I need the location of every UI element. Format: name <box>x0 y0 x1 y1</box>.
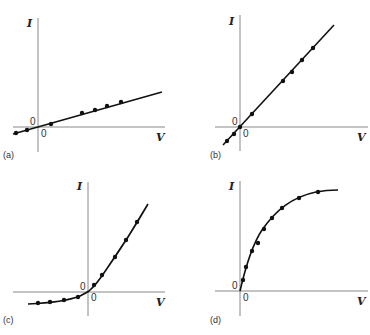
iv-characteristics-figure: I V 0 0 (a) I V 0 0 (b) <box>0 0 370 335</box>
y-axis-label: I <box>228 15 235 28</box>
origin-x-label: 0 <box>243 128 249 139</box>
x-axis-label: V <box>156 131 166 144</box>
fit-curve <box>240 190 338 291</box>
origin-y-label: 0 <box>232 280 238 291</box>
fit-line <box>13 92 162 134</box>
panel-label: (c) <box>3 315 14 325</box>
panel-label: (b) <box>210 150 221 160</box>
panel-d: I V 0 0 (d) <box>210 180 368 325</box>
origin-x-label: 0 <box>243 292 249 303</box>
x-axis-label: V <box>357 295 367 308</box>
origin-x-label: 0 <box>41 128 47 139</box>
panel-label: (a) <box>3 150 14 160</box>
panel-a: I V 0 0 (a) <box>3 17 166 160</box>
y-axis-label: I <box>76 180 83 193</box>
x-axis-label: V <box>156 296 166 309</box>
y-axis-label: I <box>26 17 33 30</box>
panel-c: I V 0 0 (c) <box>3 180 166 325</box>
origin-y-label: 0 <box>80 281 86 292</box>
data-points <box>241 190 320 282</box>
origin-y-label: 0 <box>30 116 36 127</box>
panel-b: I V 0 0 (b) <box>210 15 368 160</box>
origin-y-label: 0 <box>232 116 238 127</box>
y-axis-label: I <box>228 180 235 193</box>
panel-label: (d) <box>210 315 221 325</box>
origin-x-label: 0 <box>91 292 97 303</box>
x-axis-label: V <box>357 131 367 144</box>
